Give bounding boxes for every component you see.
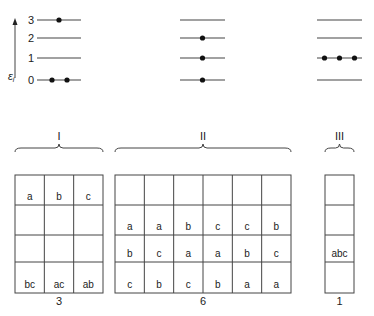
cell-label: a	[274, 279, 280, 290]
particle-dot-icon	[64, 77, 69, 82]
group-III: IIIabc1	[325, 130, 354, 307]
cell-label: a	[215, 248, 221, 259]
curly-brace-icon	[115, 144, 291, 152]
cell-label: c	[127, 279, 132, 290]
energy-panel-II	[180, 20, 225, 83]
group-label: II	[200, 130, 206, 142]
cell-label: c	[274, 248, 279, 259]
energy-axis: εi	[8, 18, 18, 83]
level-label-1: 1	[28, 52, 34, 64]
level-label-3: 3	[28, 14, 34, 26]
cell-label: ab	[83, 279, 95, 290]
cell-label: a	[27, 191, 33, 202]
microstate-count: 1	[336, 295, 342, 307]
level-label-0: 0	[28, 74, 34, 86]
cell-label: c	[245, 221, 250, 232]
group-label: III	[335, 130, 344, 142]
particle-dot-icon	[200, 35, 205, 40]
axis-label: εi	[8, 70, 15, 83]
energy-panel-I	[37, 17, 81, 82]
energy-panel-III	[317, 20, 362, 80]
cell-label: ac	[54, 279, 65, 290]
curly-brace-icon	[325, 144, 354, 152]
cell-label: b	[56, 191, 62, 202]
particle-dot-icon	[322, 55, 327, 60]
energy-level-panels	[37, 17, 362, 82]
cell-label: a	[244, 279, 250, 290]
group-label: I	[57, 130, 60, 142]
cell-label: b	[215, 279, 221, 290]
distribution-diagram: εi 3 2 1 0 Ibcaacbabc3IIcbabcacabbacabca…	[0, 0, 374, 316]
microstate-count: 6	[200, 295, 206, 307]
grid-frame	[325, 175, 354, 293]
cell-label: c	[86, 191, 91, 202]
level-labels: 3 2 1 0	[28, 14, 34, 86]
cell-label: a	[156, 221, 162, 232]
particle-dot-icon	[200, 55, 205, 60]
group-II: IIcbabcacabbacabcacb6	[115, 130, 291, 307]
arrow-up-icon	[13, 18, 18, 25]
particle-dot-icon	[200, 77, 205, 82]
particle-dot-icon	[337, 55, 342, 60]
cell-label: b	[127, 248, 133, 259]
cell-label: a	[127, 221, 133, 232]
particle-dot-icon	[56, 17, 61, 22]
curly-brace-icon	[15, 144, 103, 152]
cell-label: bc	[24, 279, 35, 290]
level-label-2: 2	[28, 32, 34, 44]
cell-label: a	[186, 248, 192, 259]
particle-dot-icon	[49, 77, 54, 82]
microstate-count: 3	[56, 295, 62, 307]
cell-label: b	[274, 221, 280, 232]
cell-label: abc	[331, 248, 347, 259]
cell-label: b	[156, 279, 162, 290]
cell-label: c	[215, 221, 220, 232]
microstate-groups: Ibcaacbabc3IIcbabcacabbacabcacb6IIIabc1	[15, 130, 354, 307]
cell-label: b	[186, 221, 192, 232]
cell-label: b	[244, 248, 250, 259]
cell-label: c	[186, 279, 191, 290]
particle-dot-icon	[352, 55, 357, 60]
group-I: Ibcaacbabc3	[15, 130, 103, 307]
cell-label: c	[157, 248, 162, 259]
